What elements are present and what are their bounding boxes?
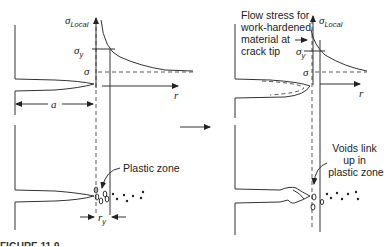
- fracture-diagram: σLocal σy σ r a Plastic zone: [0, 0, 391, 247]
- left-stress-curve: [101, 20, 193, 71]
- right-x-axis-label: r: [359, 87, 364, 99]
- left-specimen-lower-edge: [15, 125, 94, 230]
- left-x-axis-label: r: [174, 89, 179, 101]
- right-applied-stress-label: σ: [303, 66, 309, 78]
- left-applied-stress-label: σ: [84, 65, 90, 77]
- plastic-zone-label: Plastic zone: [123, 162, 180, 174]
- right-voids: [311, 194, 324, 210]
- left-yield-label: σy: [74, 44, 84, 59]
- plastic-zone-size-label: ry: [98, 211, 107, 226]
- voids-link-label: Voids link up in plastic zone: [328, 142, 384, 178]
- right-yield-label: σy: [296, 45, 306, 60]
- left-y-axis-label: σLocal: [65, 14, 89, 29]
- left-panel: σLocal σy σ r a Plastic zone: [15, 14, 193, 230]
- right-panel: σLocal σy σ r Flow stress for work-harde…: [235, 9, 384, 235]
- right-y-axis-label: σLocal: [319, 14, 343, 29]
- left-void-dots: [112, 191, 144, 202]
- right-specimen-lower-edge: [235, 125, 310, 235]
- flow-stress-label: Flow stress for work-hardened material a…: [240, 9, 314, 57]
- right-void-dots: [326, 191, 359, 200]
- crack-length-label: a: [51, 98, 57, 110]
- plastic-zone-pointer: [102, 168, 120, 188]
